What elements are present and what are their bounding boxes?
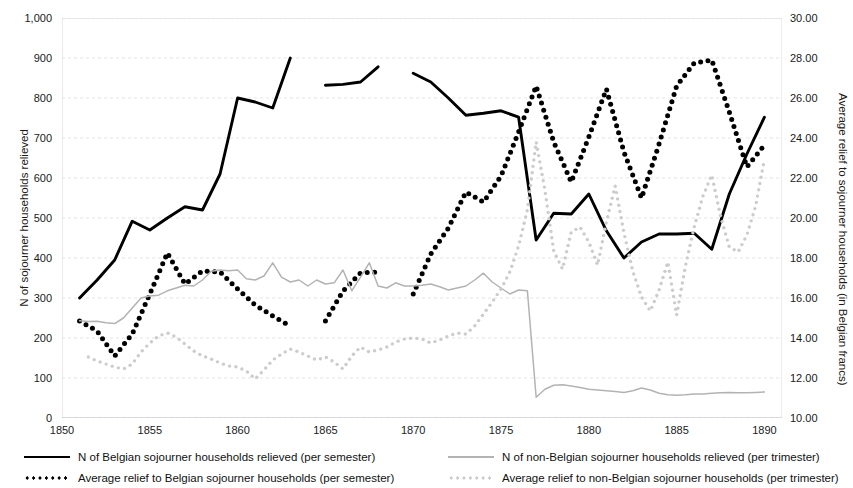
legend-label: Average relief to Belgian sojourner hous… [78, 472, 394, 484]
x-axis-tick-label: 1890 [752, 424, 776, 436]
y-axis-left-ticks: 01002003004005006007008009001,000 [6, 0, 52, 488]
y-axis-right-tick-label: 12.00 [790, 372, 840, 384]
y-axis-right-tick-label: 30.00 [790, 12, 840, 24]
y-axis-left-tick-label: 300 [6, 292, 52, 304]
x-axis-tick-label: 1850 [50, 424, 74, 436]
legend-item[interactable]: Average relief to Belgian sojourner hous… [24, 467, 394, 488]
legend-column-left: N of Belgian sojourner households reliev… [24, 446, 394, 488]
y-axis-right-tick-label: 14.00 [790, 332, 840, 344]
y-axis-left-tick-label: 600 [6, 172, 52, 184]
y-axis-left-tick-label: 700 [6, 132, 52, 144]
y-axis-right-tick-label: 10.00 [790, 412, 840, 424]
legend-item[interactable]: Average relief to non-Belgian sojourner … [448, 467, 839, 488]
y-axis-left-tick-label: 500 [6, 212, 52, 224]
x-axis-tick-label: 1865 [313, 424, 337, 436]
legend-dotted-line-icon [448, 472, 494, 484]
y-axis-right-tick-label: 22.00 [790, 172, 840, 184]
y-axis-left-tick-label: 1,000 [6, 12, 52, 24]
x-axis-tick-label: 1860 [225, 424, 249, 436]
legend-label: N of Belgian sojourner households reliev… [78, 451, 375, 463]
y-axis-left-tick-label: 200 [6, 332, 52, 344]
legend-column-right: N of non-Belgian sojourner households re… [448, 446, 839, 488]
y-axis-left-tick-label: 100 [6, 372, 52, 384]
y-axis-right-tick-label: 16.00 [790, 292, 840, 304]
chart-legend: N of Belgian sojourner households reliev… [0, 446, 853, 488]
x-axis-tick-label: 1880 [577, 424, 601, 436]
plot-svg [62, 18, 782, 418]
x-axis-tick-label: 1870 [401, 424, 425, 436]
x-axis-ticks: 185018551860186518701875188018851890 [0, 424, 853, 444]
y-axis-right-tick-label: 24.00 [790, 132, 840, 144]
plot-area [62, 18, 782, 418]
legend-label: Average relief to non-Belgian sojourner … [502, 472, 839, 484]
y-axis-left-tick-label: 900 [6, 52, 52, 64]
legend-item[interactable]: N of Belgian sojourner households reliev… [24, 446, 394, 467]
y-axis-right-tick-label: 26.00 [790, 92, 840, 104]
x-axis-tick-label: 1885 [664, 424, 688, 436]
legend-dotted-line-icon [24, 472, 70, 484]
legend-label: N of non-Belgian sojourner households re… [502, 451, 820, 463]
legend-line-icon [448, 451, 494, 463]
y-axis-left-tick-label: 800 [6, 92, 52, 104]
legend-line-icon [24, 451, 70, 463]
x-axis-tick-label: 1875 [489, 424, 513, 436]
y-axis-right-tick-label: 28.00 [790, 52, 840, 64]
y-axis-right-ticks: 10.0012.0014.0016.0018.0020.0022.0024.00… [790, 0, 840, 488]
data-series [77, 58, 764, 358]
legend-item[interactable]: N of non-Belgian sojourner households re… [448, 446, 839, 467]
chart-container: N of sojourner households relieved Avera… [0, 0, 853, 488]
y-axis-right-tick-label: 20.00 [790, 212, 840, 224]
y-axis-right-tick-label: 18.00 [790, 252, 840, 264]
y-axis-left-tick-label: 400 [6, 252, 52, 264]
y-axis-left-tick-label: 0 [6, 412, 52, 424]
x-axis-tick-label: 1855 [138, 424, 162, 436]
